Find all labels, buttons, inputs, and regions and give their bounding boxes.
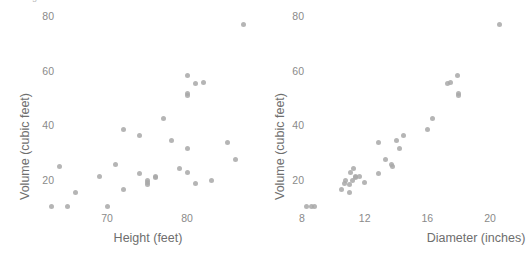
x-tick-label: 70 <box>92 213 122 223</box>
data-point <box>121 187 126 192</box>
data-point <box>394 138 399 143</box>
data-point <box>376 171 381 176</box>
y-tick-label: 40 <box>28 120 54 130</box>
data-point <box>497 22 502 27</box>
data-point <box>193 181 198 186</box>
data-point <box>97 174 102 179</box>
data-point <box>401 133 406 138</box>
data-point <box>57 164 62 169</box>
y-tick-label: 40 <box>278 120 304 130</box>
x-tick-label: 12 <box>350 213 380 223</box>
y-tick-label: 60 <box>28 66 54 76</box>
x-tick-label: 16 <box>412 213 442 223</box>
data-point <box>137 171 142 176</box>
x-tick-label: 8 <box>287 213 317 223</box>
data-point <box>376 140 381 145</box>
data-point <box>339 187 344 192</box>
data-point <box>161 116 166 121</box>
data-point <box>209 178 214 183</box>
x-axis-label-left: Height (feet) <box>68 231 228 245</box>
plot-area-left: 204060807080 <box>0 0 253 259</box>
data-point <box>455 73 460 78</box>
x-tick-label: 20 <box>475 213 505 223</box>
data-point <box>193 81 198 86</box>
data-point <box>225 140 230 145</box>
scatter-panel-diameter: Volume (cubic feet) 204060808121620 Diam… <box>253 0 507 259</box>
data-point <box>105 204 110 209</box>
data-point <box>185 93 190 98</box>
y-tick-label: 20 <box>278 175 304 185</box>
data-point <box>390 164 395 169</box>
y-tick-label: 80 <box>28 11 54 21</box>
scatter-panel-height: Volume (cubic feet) 204060807080 Height … <box>0 0 253 259</box>
data-point <box>425 127 430 132</box>
data-point <box>153 174 158 179</box>
data-point <box>362 180 367 185</box>
data-point <box>456 93 461 98</box>
data-point <box>49 204 54 209</box>
data-point <box>121 127 126 132</box>
data-point <box>351 166 356 171</box>
data-point <box>185 73 190 78</box>
data-point <box>145 180 150 185</box>
data-point <box>137 133 142 138</box>
y-tick-label: 60 <box>278 66 304 76</box>
data-point <box>177 166 182 171</box>
data-point <box>233 157 238 162</box>
data-point <box>347 190 352 195</box>
data-point <box>312 204 317 209</box>
data-point <box>448 80 453 85</box>
data-point <box>383 157 388 162</box>
data-point <box>65 204 70 209</box>
y-tick-label: 80 <box>278 11 304 21</box>
data-point <box>185 170 190 175</box>
data-point <box>185 146 190 151</box>
data-point <box>201 80 206 85</box>
data-point <box>357 174 362 179</box>
data-point <box>347 182 352 187</box>
data-point <box>169 138 174 143</box>
x-axis-label-right: Diameter (inches) <box>396 231 530 245</box>
x-tick-label: 80 <box>172 213 202 223</box>
data-point <box>73 190 78 195</box>
data-point <box>241 22 246 27</box>
data-point <box>430 116 435 121</box>
plot-area-right: 204060808121620 <box>253 0 507 259</box>
data-point <box>397 146 402 151</box>
data-point <box>113 162 118 167</box>
y-tick-label: 20 <box>28 175 54 185</box>
